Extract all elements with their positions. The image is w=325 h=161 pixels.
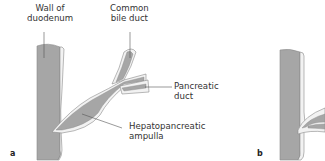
panel-letter-a: a: [10, 149, 15, 158]
duodenum-wall-a: [37, 44, 64, 160]
duodenum-wall-b: [280, 49, 305, 160]
label-hepatopancreatic-ampulla: Hepatopancreatic ampulla: [129, 121, 205, 141]
label-pancreatic-duct: Pancreatic duct: [174, 81, 219, 101]
label-wall-of-duodenum: Wall of duodenum: [27, 3, 73, 23]
label-common-bile-duct: Common bile duct: [110, 3, 149, 23]
panel-letter-b: b: [257, 149, 263, 158]
leader-lines-a: [44, 32, 172, 128]
